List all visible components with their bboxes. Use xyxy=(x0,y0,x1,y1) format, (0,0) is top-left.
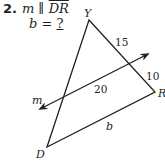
segment-label-b: b xyxy=(106,120,113,133)
vertex-label-D: D xyxy=(35,148,45,161)
segment-label-15: 15 xyxy=(115,36,128,48)
triangle-figure: Y R D m 15 10 20 b xyxy=(0,0,165,168)
line-label-m: m xyxy=(32,94,42,107)
vertex-label-Y: Y xyxy=(84,7,93,20)
segment-label-10: 10 xyxy=(146,70,159,82)
segment-label-20: 20 xyxy=(94,83,107,95)
line-m xyxy=(40,54,148,109)
vertex-label-R: R xyxy=(157,87,165,100)
